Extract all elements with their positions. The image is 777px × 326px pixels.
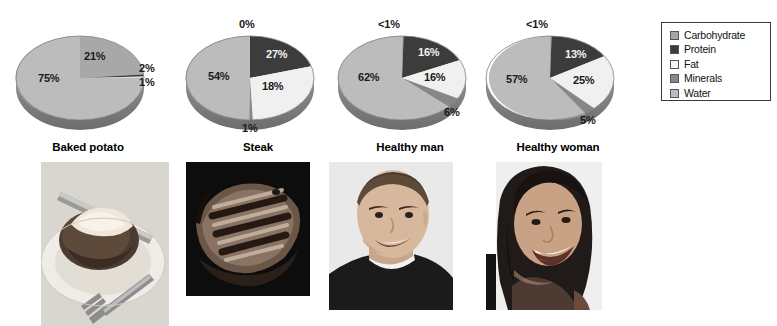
pie-label: 1%: [242, 122, 258, 134]
pie-chart-healthy-man: <1% 16% 16% 62% 6%: [330, 18, 490, 136]
legend: Carbohydrate Protein Fat Minerals Water: [661, 22, 771, 101]
legend-label: Protein: [684, 44, 716, 55]
pie-label: 1%: [139, 76, 155, 88]
legend-label: Water: [684, 88, 711, 99]
pie-svg-steak: [178, 18, 338, 136]
pie-label: <1%: [378, 18, 400, 30]
baked-potato-photo: [41, 162, 169, 326]
healthy-woman-photo: [478, 162, 602, 310]
pie-label: 75%: [38, 72, 59, 84]
legend-swatch-icon: [670, 89, 679, 98]
nutrient-composition-figure: 21% 75% 2% 1% Baked potato: [0, 0, 777, 326]
legend-swatch-icon: [670, 31, 679, 40]
legend-item-protein[interactable]: Protein: [670, 43, 770, 57]
pie-label: 16%: [424, 71, 445, 83]
pie-label: 13%: [565, 48, 586, 60]
pie-label: 0%: [239, 18, 255, 30]
pie-label: 25%: [573, 74, 594, 86]
pie-label: 57%: [506, 73, 527, 85]
steak-photo: [186, 162, 310, 296]
legend-swatch-icon: [670, 45, 679, 54]
legend-label: Minerals: [684, 73, 722, 84]
pie-label: 62%: [358, 71, 379, 83]
pie-label: 16%: [418, 46, 439, 58]
legend-label: Carbohydrate: [684, 30, 745, 41]
legend-item-minerals[interactable]: Minerals: [670, 72, 770, 86]
legend-item-carbohydrate[interactable]: Carbohydrate: [670, 28, 770, 42]
pie-label: 54%: [208, 70, 229, 82]
legend-item-water[interactable]: Water: [670, 86, 770, 100]
pie-svg-healthy-man: [330, 18, 490, 136]
panel-caption: Baked potato: [8, 141, 168, 153]
legend-swatch-icon: [670, 60, 679, 69]
pie-label: 21%: [84, 50, 105, 62]
pie-label: 6%: [444, 106, 460, 118]
pie-chart-baked-potato: 21% 75% 2% 1%: [8, 18, 168, 136]
panel-caption: Healthy woman: [478, 141, 638, 153]
legend-label: Fat: [684, 59, 699, 70]
legend-item-fat[interactable]: Fat: [670, 57, 770, 71]
legend-swatch-icon: [670, 74, 679, 83]
pie-label: 5%: [580, 114, 596, 126]
pie-chart-healthy-woman: <1% 13% 25% 57% 5%: [478, 18, 638, 136]
pie-label: 27%: [266, 48, 287, 60]
pie-label: <1%: [526, 18, 548, 30]
panel-caption: Steak: [178, 141, 338, 153]
pie-label: 2%: [139, 62, 155, 74]
pie-chart-steak: 0% 27% 18% 54% 1%: [178, 18, 338, 136]
panel-caption: Healthy man: [330, 141, 490, 153]
pie-label: 18%: [262, 80, 283, 92]
pie-svg-healthy-woman: [478, 18, 638, 136]
healthy-man-photo: [329, 162, 453, 310]
